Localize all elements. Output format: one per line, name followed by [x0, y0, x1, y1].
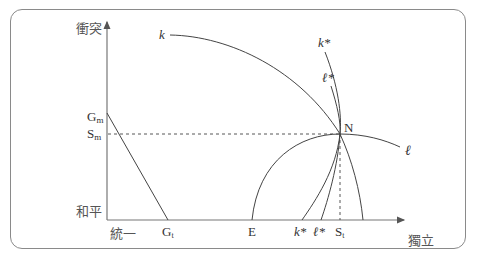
curve-l-label: ℓ — [405, 143, 411, 158]
y-axis-bottom-label: 和平 — [76, 204, 102, 219]
curve-k-star-label: k* — [318, 35, 331, 50]
curve-l-star — [321, 86, 340, 220]
x-axis-left-label: 統一 — [110, 226, 136, 241]
gm-gt-line — [107, 113, 168, 220]
gt-label: Gt — [162, 224, 174, 240]
st-label: St — [335, 224, 345, 240]
l-star-axis-label: ℓ* — [313, 224, 325, 239]
curve-l-star-label: ℓ* — [322, 70, 334, 85]
gm-label: Gm — [87, 109, 103, 125]
curve-k — [170, 35, 363, 220]
curve-l — [252, 134, 400, 220]
curve-k-label: k — [159, 27, 165, 42]
k-star-axis-label: k* — [294, 224, 307, 239]
sm-label: Sm — [87, 126, 101, 142]
e-label: E — [248, 224, 256, 239]
y-axis-top-label: 衝突 — [76, 21, 102, 36]
x-axis-right-label: 獨立 — [408, 233, 434, 248]
bargaining-diagram: 衝突 和平 統一 獨立 Gm Sm Gt E k* ℓ* St k k* ℓ* … — [0, 0, 477, 260]
point-n-label: N — [344, 120, 354, 135]
